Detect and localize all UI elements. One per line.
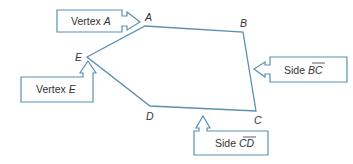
vertex-label-e: E (75, 51, 83, 63)
vertex-label-c: C (254, 114, 262, 126)
callout-box-vertex-e (21, 61, 96, 102)
vertex-label-a: A (144, 11, 152, 23)
callout-label-side-bc: Side BC (284, 64, 323, 76)
polygon-diagram: A B C D E Vertex A Vertex E Side BC Side… (0, 0, 353, 164)
callout-label-side-cd: Side CD (215, 137, 255, 149)
callout-vertex-e: Vertex E (21, 61, 96, 102)
vertex-label-b: B (240, 17, 247, 29)
callout-label-vertex-a: Vertex A (71, 15, 111, 27)
callout-side-bc: Side BC (254, 57, 347, 82)
callout-label-vertex-e: Vertex E (36, 83, 77, 95)
pentagon-shape (87, 26, 256, 111)
vertex-label-d: D (146, 110, 154, 122)
callout-vertex-a: Vertex A (57, 10, 140, 32)
